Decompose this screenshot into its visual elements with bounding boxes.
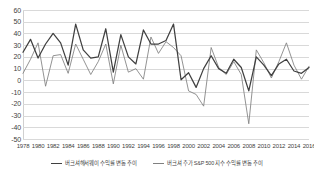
y-axis-tick-label: -40 [1,124,21,131]
x-axis-tick-label: 1998 [167,142,180,150]
series-line [23,37,309,124]
series-lines [23,10,309,139]
y-axis-tick-label: 30 [1,42,21,49]
x-axis-tick-label: 2010 [258,142,271,150]
x-axis-tick-label: 1996 [152,142,165,150]
x-axis-tick-label: 1986 [77,142,90,150]
legend-line-icon [153,163,164,164]
y-axis-tick-label: -10 [1,89,21,96]
y-axis-tick-label: 0 [1,77,21,84]
x-axis-tick-label: 2004 [212,142,225,150]
x-axis-tick-label: 1982 [47,142,60,150]
x-axis-tick-label: 1980 [32,142,45,150]
legend-label: 버크셔 주가 S&P 500 지수 수익률 변동 추이 [167,160,263,167]
legend-item[interactable]: 버크셔 주가 S&P 500 지수 수익률 변동 추이 [153,160,263,167]
y-axis-tick-label: 10 [1,65,21,72]
plot-area [23,10,309,139]
series-line [23,24,309,91]
chart-container: 6050403020100-10-20-30-40-50 19781980198… [0,0,314,170]
x-axis-tick-label: 1992 [122,142,135,150]
x-axis-tick-label: 2016 [303,142,314,150]
x-axis-tick-label: 2012 [273,142,286,150]
y-axis-tick-label: 60 [1,7,21,14]
x-axis-tick-label: 1984 [62,142,75,150]
x-axis-tick-label: 1990 [107,142,120,150]
legend-label: 버크셔해서웨이 수익률 변동 추이 [65,160,137,167]
legend-item[interactable]: 버크셔해서웨이 수익률 변동 추이 [51,160,137,167]
x-axis-tick-label: 1978 [17,142,30,150]
x-axis-tick-label: 2008 [243,142,256,150]
y-axis-tick-label: -20 [1,100,21,107]
y-axis: 6050403020100-10-20-30-40-50 [0,0,21,150]
chart-legend: 버크셔해서웨이 수익률 변동 추이버크셔 주가 S&P 500 지수 수익률 변… [0,158,314,169]
x-axis-tick-label: 1994 [137,142,150,150]
x-axis-tick-label: 2002 [197,142,210,150]
x-axis-tick-label: 2014 [288,142,301,150]
x-axis-tick-label: 2006 [227,142,240,150]
y-axis-tick-label: 40 [1,30,21,37]
legend-line-icon [51,163,62,164]
gridline [23,139,309,140]
x-axis: 1978198019821984198619881990199219941996… [23,142,309,152]
x-axis-tick-label: 2000 [182,142,195,150]
y-axis-tick-label: -30 [1,112,21,119]
x-axis-tick-label: 1988 [92,142,105,150]
y-axis-tick-label: 50 [1,18,21,25]
y-axis-tick-label: 20 [1,53,21,60]
